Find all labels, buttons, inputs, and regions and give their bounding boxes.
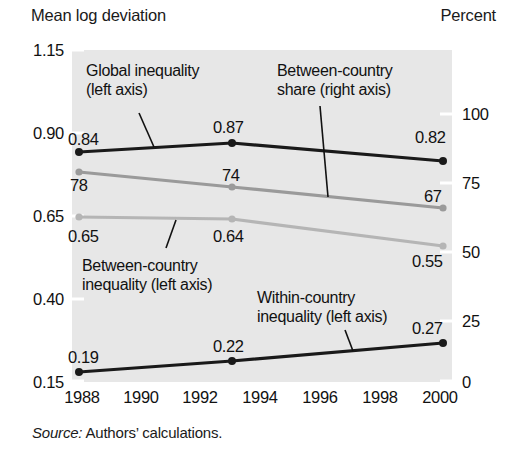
annotation-within-country-inequality: Within-country inequality (left axis) <box>257 288 387 326</box>
point-label-global-2000: 0.82 <box>415 128 446 147</box>
leader-line-global-inequality <box>139 113 154 147</box>
leader-line-between-country-ineq <box>166 220 176 248</box>
source-text: Authors’ calculations. <box>82 424 222 441</box>
point-label-within-1988: 0.19 <box>68 348 99 367</box>
annotation-between-country-share: Between-country share (right axis) <box>277 61 393 99</box>
point-label-global-1988: 0.84 <box>68 130 99 149</box>
annotation-between-country-inequality: Between-country inequality (left axis) <box>82 256 212 294</box>
series-within-country-inequality <box>75 339 447 376</box>
point-label-within-2000: 0.27 <box>412 319 443 338</box>
point-label-share-1988: 78 <box>70 176 88 195</box>
leader-line-within-country-ineq <box>345 330 353 351</box>
chart-figure: Mean log deviation Percent 1.15 0.90 0.6… <box>0 0 513 460</box>
series-between-country-share <box>75 168 446 211</box>
point-label-between-1988: 0.65 <box>68 227 99 246</box>
series-between-country-inequality <box>75 213 446 249</box>
point-label-between-1993: 0.64 <box>213 227 244 246</box>
source-prefix: Source: <box>32 424 82 441</box>
point-label-global-1993: 0.87 <box>213 118 244 137</box>
series-global-inequality <box>75 139 447 165</box>
point-label-share-2000: 67 <box>424 187 442 206</box>
point-label-between-2000: 0.55 <box>412 252 443 271</box>
point-label-within-1993: 0.22 <box>213 337 244 356</box>
point-label-share-1993: 74 <box>222 166 240 185</box>
source-note: Source: Authors’ calculations. <box>32 424 222 441</box>
annotation-global-inequality: Global inequality (left axis) <box>86 61 199 99</box>
